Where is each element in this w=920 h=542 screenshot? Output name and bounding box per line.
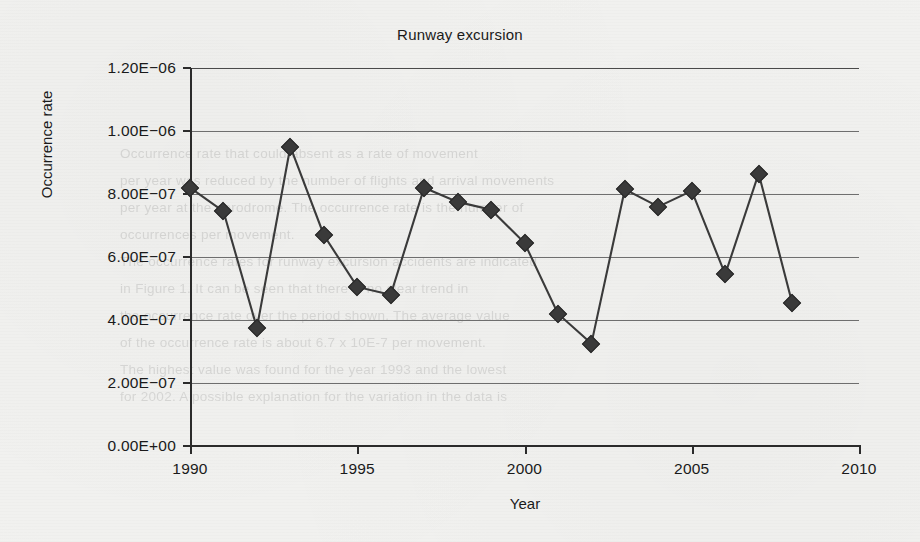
y-tick-label: 0.00E+00 [108,437,176,455]
y-tick-label: 8.00E−07 [108,185,176,203]
series-line [190,68,859,446]
y-axis-title: Occurrence rate [38,25,55,265]
x-tick [357,445,359,454]
x-tick-label: 1995 [340,460,375,478]
y-tick-label: 2.00E−07 [108,374,176,392]
y-tick-label: 1.20E−06 [108,59,176,77]
x-tick [525,445,527,454]
x-tick [692,445,694,454]
x-tick-label: 2005 [674,460,709,478]
x-tick-label: 2000 [507,460,542,478]
chart-title: Runway excursion [0,26,920,43]
y-tick-label: 1.00E−06 [108,122,176,140]
x-tick [190,445,192,454]
x-tick-label: 2010 [841,460,876,478]
x-tick-label: 1990 [172,460,207,478]
y-tick-label: 6.00E−07 [108,248,176,266]
y-tick-label: 4.00E−07 [108,311,176,329]
chart-figure: Runway excursion Occurrence rate Year 0.… [0,0,920,542]
x-tick [859,445,861,454]
plot-area: 0.00E+002.00E−074.00E−076.00E−078.00E−07… [190,68,859,446]
x-axis-title: Year [190,495,860,512]
